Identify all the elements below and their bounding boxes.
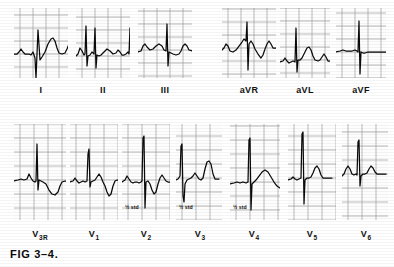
ecg-trace-avf [336,21,386,74]
lead-label-subscript: 2 [147,234,151,241]
lead-label-v5: V5 [286,230,338,239]
ecg-panel-ii [76,8,130,78]
ecg-grid [76,8,130,78]
ecg-grid [138,8,192,78]
lead-label-subscript: 5 [313,234,317,241]
half-standard-note-v4: ½ std [233,205,247,210]
ecg-grid [280,8,330,78]
lead-label-v3: V3 [174,230,226,239]
lead-label-subscript: 1 [95,234,99,241]
ecg-trace-v5 [288,132,332,204]
lead-label-i: I [14,86,68,95]
ecg-trace-v4 [230,138,280,210]
lead-label-ii: II [76,86,130,95]
ecg-trace-v1 [70,149,118,196]
ecg-grid [288,124,336,220]
half-standard-note-v3: ½ std [179,205,193,210]
lead-label-v3r: V3R [14,230,66,239]
ecg-panel-v3r [14,124,66,220]
lead-label-avf: aVF [334,86,388,95]
ecg-trace-v6 [342,140,386,186]
ecg-panel-avr [222,8,276,78]
ecg-grid [336,8,386,78]
half-standard-note-v2: ½ std [125,205,139,210]
ecg-panel-v5 [288,124,336,220]
lead-label-avl: aVL [278,86,332,95]
lead-label-subscript: 3 [201,234,205,241]
ecg-grid [14,124,66,220]
ecg-grid [342,124,388,220]
ecg-panel-v1 [70,124,118,220]
ecg-trace-v3 [176,144,219,202]
ecg-panel-i [14,8,68,78]
lead-label-v4: V4 [228,230,280,239]
lead-label-subscript: 4 [255,234,259,241]
ecg-trace-ii [76,26,130,70]
ecg-trace-v2 [122,136,170,208]
ecg-trace-avl [280,28,330,72]
lead-label-v6: V6 [340,230,392,239]
ecg-panel-avl [280,8,330,78]
ecg-grid [70,124,118,220]
lead-label-subscript: 6 [367,234,371,241]
lead-label-v1: V1 [68,230,120,239]
figure-caption: FIG 3–4. [10,248,58,260]
lead-label-avr: aVR [222,86,276,95]
lead-label-v2: V2 [120,230,172,239]
ecg-trace-iii [138,24,192,66]
ecg-panel-avf [336,8,386,78]
ecg-grid [14,8,68,78]
lead-label-subscript: 3R [39,234,48,241]
ecg-figure [0,0,394,267]
ecg-panel-iii [138,8,192,78]
ecg-trace-avr [222,22,276,70]
ecg-panel-v6 [342,124,388,220]
lead-label-iii: III [138,86,192,95]
